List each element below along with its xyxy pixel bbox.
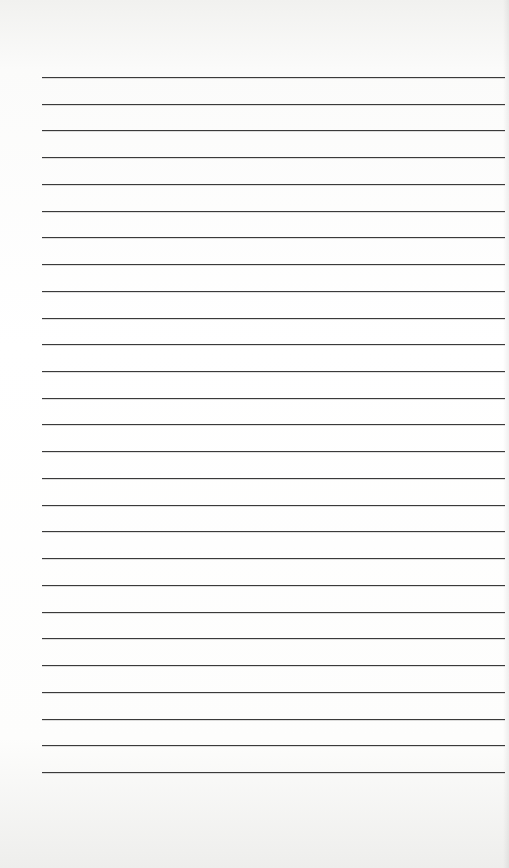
ruled-line <box>42 371 505 372</box>
ruled-line <box>42 157 505 158</box>
ruled-line <box>42 531 505 532</box>
ruled-line <box>42 184 505 185</box>
ruled-line <box>42 692 505 693</box>
ruled-line <box>42 638 505 639</box>
ruled-line <box>42 318 505 319</box>
ruled-line <box>42 665 505 666</box>
ruled-line <box>42 558 505 559</box>
ruled-line <box>42 772 505 773</box>
ruled-line <box>42 424 505 425</box>
ruled-line <box>42 77 505 78</box>
ruled-line <box>42 130 505 131</box>
ruled-line <box>42 104 505 105</box>
ruled-line <box>42 237 505 238</box>
lined-paper-sheet <box>0 0 509 868</box>
ruled-line <box>42 505 505 506</box>
ruled-line <box>42 478 505 479</box>
ruled-line <box>42 398 505 399</box>
ruled-line <box>42 585 505 586</box>
ruled-line <box>42 451 505 452</box>
ruled-line <box>42 612 505 613</box>
ruled-line <box>42 745 505 746</box>
ruled-line <box>42 211 505 212</box>
ruled-line <box>42 344 505 345</box>
ruled-line <box>42 719 505 720</box>
ruled-line <box>42 291 505 292</box>
ruled-line <box>42 264 505 265</box>
